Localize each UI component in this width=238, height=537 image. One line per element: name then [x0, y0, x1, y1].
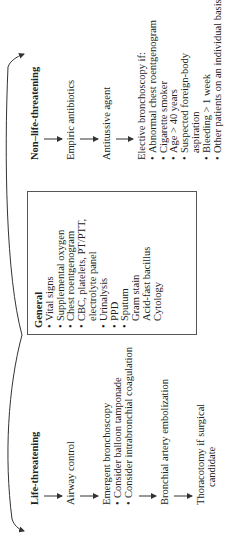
general-item: Vital signs — [45, 198, 56, 328]
general-item: CBC, platelets, PT/PTT, — [77, 198, 88, 328]
general-item-sub: Cytology — [153, 198, 164, 328]
bullet-criterion: Suspected foreign-body — [180, 0, 191, 160]
life-threatening-title: Life-threatening — [30, 432, 41, 505]
general-item: Sputum — [120, 198, 131, 328]
general-box: General Vital signs Supplemental oxygen … — [27, 191, 197, 335]
bullet-intrabronchial-coagulation: Consider intrabronchial coagulation — [124, 347, 135, 505]
step-airway-control: Airway control — [66, 441, 77, 505]
bullet-criterion: Abnormal chest roentgenogram — [148, 0, 159, 160]
general-item: Urinalysis — [99, 198, 110, 328]
bullet-balloon-tamponade: Consider balloon tamponade — [113, 347, 124, 505]
bullet-criterion: Other patients on an individual basis — [213, 0, 224, 160]
flowchart-canvas: Life-threatening Airway control Emergent… — [0, 0, 238, 537]
step-bronchial-artery-embolization: Bronchial artery embolization — [160, 379, 171, 505]
branch-curve-left — [8, 335, 24, 531]
step-empiric-antibiotics: Empiric antibiotics — [66, 80, 77, 160]
step-elective-bronchoscopy: Elective bronchoscopy if: Abnormal chest… — [137, 0, 223, 160]
bullet-criterion: Bleeding > 1 week — [202, 0, 213, 160]
step-emergent-bronchoscopy: Emergent bronchoscopy Consider balloon t… — [102, 347, 134, 505]
step-antitussive-agent: Antitussive agent — [102, 87, 113, 160]
step-text-line2: candidate — [207, 404, 218, 505]
step-thoracotomy: Thoracotomy if surgical candidate — [196, 404, 218, 505]
non-life-threatening-title: Non–life-threatening — [30, 67, 41, 160]
branch-curve-right — [6, 54, 24, 335]
